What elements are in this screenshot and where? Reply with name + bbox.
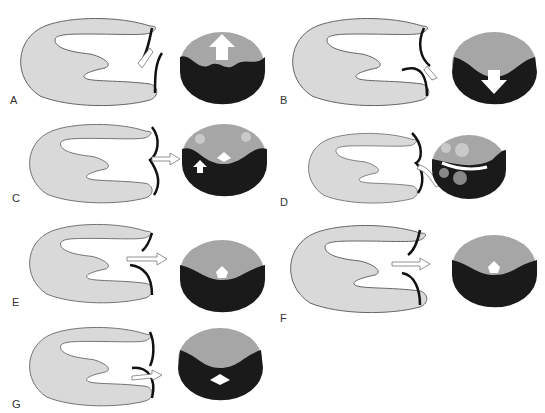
panel-label: B: [280, 94, 287, 106]
valve-circle-d: [432, 135, 507, 193]
panel-label: F: [280, 312, 287, 324]
valve-circle-f: [452, 235, 537, 300]
panel-label: E: [12, 296, 19, 308]
valve-circle-a: [180, 32, 265, 97]
panel-b: B: [272, 0, 545, 110]
panel-label: A: [10, 94, 17, 106]
heart-diagram-a: [10, 8, 170, 108]
panel-c: C: [0, 110, 272, 210]
valve-circle-e: [180, 240, 265, 305]
heart-diagram-e: [12, 215, 172, 305]
panel-g: G: [0, 310, 272, 413]
valve-circle-c: [182, 124, 267, 189]
panel-a: A: [0, 0, 272, 110]
heart-diagram-g: [12, 318, 172, 408]
panel-f: F: [272, 210, 545, 320]
heart-diagram-f: [280, 215, 440, 315]
panel-d: D: [272, 120, 545, 220]
heart-diagram-b: [282, 8, 442, 108]
heart-diagram-c: [12, 115, 172, 205]
heart-diagram-d: [284, 125, 444, 205]
valve-circle-g: [178, 328, 263, 393]
panel-label: G: [12, 398, 21, 410]
panel-e: E: [0, 210, 272, 313]
panel-label: C: [12, 192, 20, 204]
valve-circle-b: [452, 32, 537, 97]
panel-label: D: [280, 196, 288, 208]
